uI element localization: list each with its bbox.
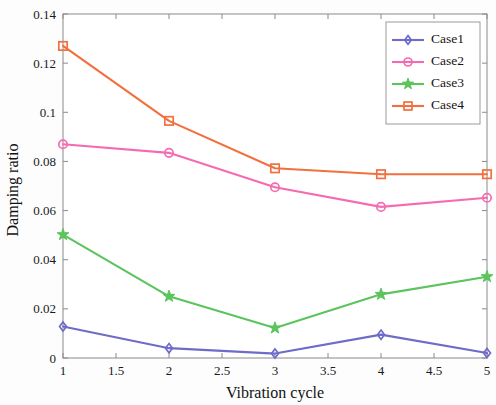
x-tick-label: 3.5	[320, 363, 336, 378]
y-tick-label: 0.02	[33, 301, 56, 316]
y-axis-title: Damping ratio	[4, 144, 22, 237]
legend-label-case1: Case1	[431, 31, 464, 46]
y-tick-label: 0	[50, 351, 57, 366]
y-tick-label: 0.1	[40, 105, 56, 120]
chart-figure: 11.522.533.544.55 00.020.040.060.080.10.…	[0, 0, 496, 405]
legend-label-case2: Case2	[431, 53, 464, 68]
x-tick-label: 5	[484, 363, 491, 378]
x-tick-label: 1.5	[108, 363, 124, 378]
chart-canvas: 11.522.533.544.55 00.020.040.060.080.10.…	[0, 0, 496, 405]
x-tick-label: 2	[166, 363, 173, 378]
chart-legend: Case1Case2Case3Case4	[386, 22, 480, 124]
x-tick-label: 3	[272, 363, 279, 378]
x-tick-label: 4	[378, 363, 385, 378]
y-tick-label: 0.06	[33, 203, 56, 218]
legend-label-case3: Case3	[431, 75, 464, 90]
y-tick-label: 0.08	[33, 154, 56, 169]
x-tick-label: 2.5	[214, 363, 230, 378]
x-tick-label: 4.5	[426, 363, 442, 378]
legend-label-case4: Case4	[431, 97, 464, 112]
y-tick-label: 0.04	[33, 252, 56, 267]
y-tick-label: 0.12	[33, 56, 56, 71]
y-tick-label: 0.14	[33, 7, 56, 22]
x-axis-title: Vibration cycle	[226, 384, 324, 402]
x-tick-label: 1	[60, 363, 67, 378]
